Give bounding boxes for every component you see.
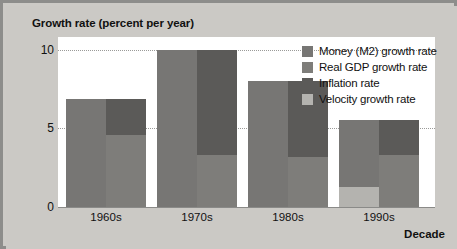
bar-1990s-money-velocity: [339, 120, 379, 207]
legend-item-money: Money (M2) growth rate: [302, 44, 452, 58]
segment-velocity-1990s: [339, 187, 379, 207]
y-tick-label-10: 10: [14, 43, 54, 57]
segment-gdp-1980s: [288, 157, 328, 207]
segment-gdp-1960s: [106, 135, 146, 207]
chart-frame: Growth rate (percent per year): [0, 0, 457, 249]
segment-gdp-1990s: [379, 155, 419, 207]
y-axis-title: Growth rate (percent per year): [32, 17, 194, 29]
legend-label-inflation: Inflation rate: [319, 77, 380, 89]
bar-1960s-inflation-gdp: [106, 99, 146, 207]
x-tick-label-1970s: 1970s: [181, 211, 212, 223]
segment-money-1980s: [248, 81, 288, 207]
segment-inflation-1960s: [106, 99, 146, 135]
x-tick-label-1990s: 1990s: [363, 211, 394, 223]
segment-inflation-1990s: [379, 120, 419, 155]
legend-item-inflation: Inflation rate: [302, 76, 452, 90]
segment-inflation-1970s: [197, 50, 237, 155]
legend-swatch-inflation-icon: [302, 78, 313, 89]
x-tick-label-1980s: 1980s: [272, 211, 303, 223]
x-axis-line: [58, 207, 435, 208]
bar-1970s-money: [157, 50, 197, 207]
segment-money-1990s: [339, 120, 379, 187]
legend-label-gdp: Real GDP growth rate: [319, 61, 427, 73]
chart-legend: Money (M2) growth rate Real GDP growth r…: [302, 44, 452, 108]
y-tick-label-5: 5: [14, 121, 54, 135]
chart-canvas: Growth rate (percent per year): [6, 6, 457, 249]
legend-label-velocity: Velocity growth rate: [319, 93, 415, 105]
x-axis-title: Decade: [404, 228, 445, 240]
segment-money-1970s: [157, 50, 197, 207]
legend-swatch-gdp-icon: [302, 62, 313, 73]
legend-item-gdp: Real GDP growth rate: [302, 60, 452, 74]
legend-item-velocity: Velocity growth rate: [302, 92, 452, 106]
bar-1970s-inflation-gdp: [197, 50, 237, 207]
bar-1960s-money: [66, 99, 106, 207]
x-tick-label-1960s: 1960s: [90, 211, 121, 223]
legend-swatch-velocity-icon: [302, 94, 313, 105]
y-tick-label-0: 0: [14, 200, 54, 214]
segment-money-1960s: [66, 99, 106, 207]
segment-gdp-1970s: [197, 155, 237, 207]
y-axis-ticks: 10 5 0: [10, 37, 54, 207]
bar-1980s-money: [248, 81, 288, 207]
legend-label-money: Money (M2) growth rate: [319, 45, 437, 57]
bar-1990s-inflation-gdp: [379, 120, 419, 207]
legend-swatch-money-icon: [302, 46, 313, 57]
